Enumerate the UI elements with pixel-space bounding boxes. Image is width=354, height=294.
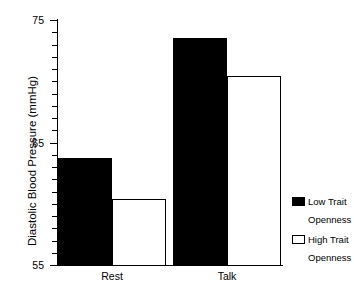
y-tick-minor	[52, 130, 57, 131]
y-tick-minor	[52, 118, 57, 119]
y-tick-minor	[52, 167, 57, 168]
y-tick-minor	[52, 155, 57, 156]
y-tick-minor	[52, 241, 57, 242]
x-axis-label-rest: Rest	[72, 270, 152, 282]
legend-row: Low Trait	[292, 196, 354, 207]
bar-rest-low-trait-openness	[58, 158, 112, 266]
bar-chart-figure: Diastolic Blood Pressure (mmHg) 756555 R…	[0, 0, 354, 294]
y-axis-title: Diastolic Blood Pressure (mmHg)	[26, 41, 38, 281]
bar-talk-low-trait-openness	[173, 38, 227, 266]
legend-label-line1: Low Trait	[308, 196, 347, 207]
legend-swatch-filled-icon	[292, 197, 305, 206]
x-axis-label-talk: Talk	[187, 270, 267, 282]
y-tick-label: 75	[4, 15, 44, 25]
legend-swatch-hollow-icon	[292, 235, 305, 244]
bar-talk-high-trait-openness	[227, 76, 281, 266]
y-tick-major	[50, 20, 57, 21]
legend-label-line2: Openness	[308, 214, 354, 225]
y-tick-minor	[52, 106, 57, 107]
y-tick-minor	[52, 81, 57, 82]
legend-label-line2: Openness	[308, 252, 354, 263]
y-tick-minor	[52, 94, 57, 95]
y-tick-minor	[52, 45, 57, 46]
y-tick-minor	[52, 32, 57, 33]
y-tick-major	[50, 265, 57, 266]
legend-entry-low-trait-openness: Low TraitOpenness	[292, 196, 354, 225]
y-tick-label: 55	[4, 260, 44, 270]
y-tick-label: 65	[4, 138, 44, 148]
chart-legend: Low TraitOpennessHigh TraitOpenness	[292, 196, 354, 272]
y-tick-major	[50, 143, 57, 144]
y-tick-minor	[52, 228, 57, 229]
legend-entry-high-trait-openness: High TraitOpenness	[292, 234, 354, 263]
bar-rest-high-trait-openness	[112, 199, 166, 266]
y-tick-minor	[52, 253, 57, 254]
y-tick-minor	[52, 69, 57, 70]
y-tick-minor	[52, 216, 57, 217]
y-tick-minor	[52, 57, 57, 58]
y-tick-minor	[52, 192, 57, 193]
y-tick-minor	[52, 179, 57, 180]
legend-row: High Trait	[292, 234, 354, 245]
y-tick-minor	[52, 204, 57, 205]
legend-label-line1: High Trait	[308, 234, 349, 245]
